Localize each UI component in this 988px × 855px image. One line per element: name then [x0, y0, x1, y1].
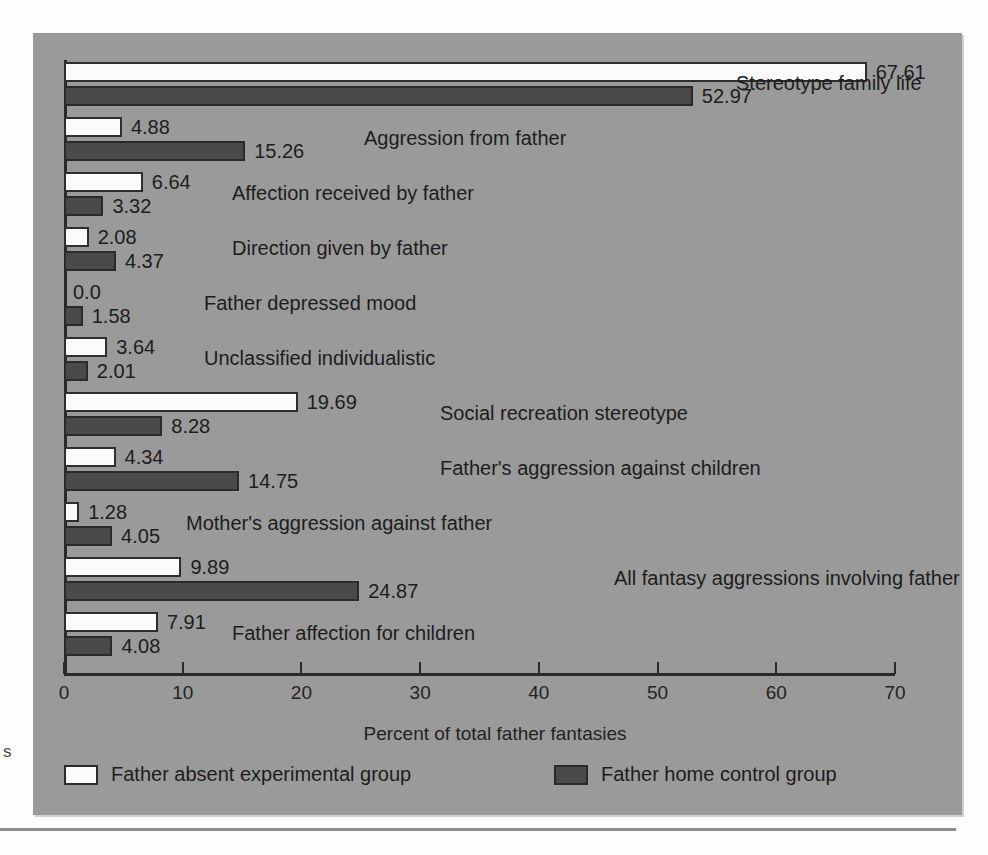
x-axis-tick-label: 70 [884, 682, 905, 704]
x-axis-tick-label: 60 [766, 682, 787, 704]
bar-value-label: 1.28 [88, 502, 127, 522]
legend-swatch-light [64, 765, 98, 785]
page-margin-text-fragment: s [3, 742, 12, 762]
legend-label: Father home control group [601, 763, 837, 786]
x-axis-tick [894, 662, 896, 674]
legend-entry[interactable]: Father home control group [554, 763, 837, 786]
page-bottom-rule [0, 828, 956, 831]
category-label: Aggression from father [364, 128, 566, 149]
x-axis-tick-label: 30 [410, 682, 431, 704]
bar-experimental-group [64, 557, 181, 577]
x-axis-tick [182, 662, 184, 674]
bar-experimental-group [64, 447, 116, 467]
bar-control-group [64, 196, 103, 216]
x-axis-tick-label: 40 [528, 682, 549, 704]
bar-control-group [64, 526, 112, 546]
bar-value-label: 14.75 [248, 471, 298, 491]
bar-experimental-group [64, 117, 122, 137]
bar-experimental-group [64, 172, 143, 192]
x-axis-tick [300, 662, 302, 674]
x-axis-line [64, 673, 895, 676]
bar-control-group [64, 141, 245, 161]
bar-value-label: 4.37 [125, 251, 164, 271]
bar-control-group [64, 636, 112, 656]
chart-legend: Father absent experimental groupFather h… [64, 763, 944, 797]
x-axis-tick [538, 662, 540, 674]
bar-value-label: 7.91 [167, 612, 206, 632]
x-axis-tick-label: 20 [291, 682, 312, 704]
bar-value-label: 1.58 [92, 306, 131, 326]
x-axis-tick-label: 10 [172, 682, 193, 704]
bar-value-label: 3.32 [112, 196, 151, 216]
bar-value-label: 19.69 [307, 392, 357, 412]
bar-control-group [64, 471, 239, 491]
x-axis-tick [775, 662, 777, 674]
category-label: Unclassified individualistic [204, 348, 435, 369]
bar-control-group [64, 86, 693, 106]
legend-label: Father absent experimental group [111, 763, 411, 786]
bar-value-label: 3.64 [116, 337, 155, 357]
bar-control-group [64, 306, 83, 326]
category-label: Affection received by father [232, 183, 474, 204]
x-axis-tick [657, 662, 659, 674]
category-label: Father affection for children [232, 623, 475, 644]
category-label: All fantasy aggressions involving father [614, 568, 960, 589]
legend-swatch-dark [554, 765, 588, 785]
chart-panel: 010203040506070 67.6152.97Stereotype fam… [33, 33, 962, 815]
bar-value-label: 15.26 [254, 141, 304, 161]
category-label: Father's aggression against children [440, 458, 761, 479]
category-label: Social recreation stereotype [440, 403, 688, 424]
plot-area: 010203040506070 67.6152.97Stereotype fam… [64, 60, 926, 670]
legend-entry[interactable]: Father absent experimental group [64, 763, 411, 786]
category-label: Stereotype family life [736, 73, 922, 94]
bar-experimental-group [64, 337, 107, 357]
bar-experimental-group [64, 227, 89, 247]
bar-value-label: 0.0 [73, 282, 101, 302]
x-axis-tick [63, 662, 65, 674]
bar-value-label: 9.89 [190, 557, 229, 577]
bar-control-group [64, 416, 162, 436]
bar-value-label: 24.87 [368, 581, 418, 601]
category-label: Mother's aggression against father [186, 513, 492, 534]
bar-control-group [64, 251, 116, 271]
bar-value-label: 8.28 [171, 416, 210, 436]
bar-value-label: 6.64 [152, 172, 191, 192]
x-axis-tick-label: 50 [647, 682, 668, 704]
x-axis-title: Percent of total father fantasies [64, 723, 926, 745]
bar-control-group [64, 581, 359, 601]
x-axis-tick [419, 662, 421, 674]
bar-experimental-group [64, 392, 298, 412]
bar-value-label: 4.88 [131, 117, 170, 137]
bar-value-label: 2.01 [97, 361, 136, 381]
x-axis-tick-label: 0 [59, 682, 70, 704]
bar-experimental-group [64, 612, 158, 632]
category-label: Direction given by father [232, 238, 448, 259]
bar-value-label: 2.08 [98, 227, 137, 247]
category-label: Father depressed mood [204, 293, 416, 314]
figure-page: s 010203040506070 67.6152.97Stereotype f… [0, 0, 988, 855]
bar-value-label: 4.34 [125, 447, 164, 467]
bar-value-label: 4.05 [121, 526, 160, 546]
bar-control-group [64, 361, 88, 381]
bar-experimental-group [64, 502, 79, 522]
bar-value-label: 4.08 [121, 636, 160, 656]
